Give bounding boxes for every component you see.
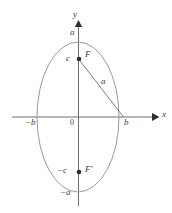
label-origin: 0 bbox=[70, 118, 74, 127]
label-focus-lower-name: F′ bbox=[85, 165, 92, 174]
label-top-vertex: a bbox=[70, 28, 75, 37]
focus-upper-point bbox=[77, 57, 82, 62]
label-y-axis: y bbox=[73, 10, 77, 19]
focus-lower-point bbox=[77, 170, 82, 175]
y-axis-arrowhead-icon bbox=[75, 20, 82, 27]
label-focus-upper-coord: c bbox=[66, 54, 70, 63]
x-axis-arrowhead-icon bbox=[152, 113, 160, 121]
label-chord-length: a bbox=[101, 77, 106, 86]
label-left-vertex: −b bbox=[25, 118, 36, 127]
diagram-canvas bbox=[0, 0, 172, 213]
chord-focus-to-vertex bbox=[79, 60, 124, 118]
label-x-axis: x bbox=[162, 110, 166, 119]
label-focus-lower-coord: −c bbox=[57, 166, 67, 175]
ellipse-diagram: a c F a −b 0 b −c F′ −a y x bbox=[0, 0, 172, 213]
label-bottom-vertex: −a bbox=[60, 188, 71, 197]
label-focus-upper-name: F bbox=[85, 50, 91, 59]
label-right-vertex: b bbox=[124, 118, 129, 127]
